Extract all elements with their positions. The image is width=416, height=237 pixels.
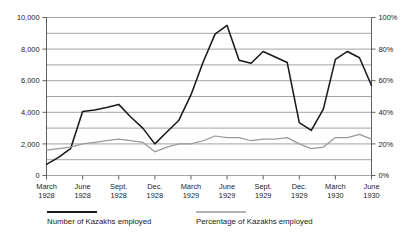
right-axis-tick-label: 40%	[379, 108, 394, 117]
left-axis-ticks	[43, 18, 47, 176]
left-axis-tick-labels: 10,0008,0006,0004,0002,0000	[17, 13, 40, 180]
x-axis-tick-label-year: 1928	[147, 191, 163, 200]
x-axis-tick-label-year: 1928	[74, 191, 90, 200]
x-axis-tick-label-year: 1930	[327, 191, 343, 200]
left-axis-tick-label: 10,000	[17, 13, 40, 22]
left-axis-tick-label: 0	[35, 171, 39, 180]
chart-legend: Number of Kazakhs employedPercentage of …	[47, 212, 313, 226]
x-axis-tick-labels: March1928June1928Sept.1928Dec.1928March1…	[36, 176, 380, 201]
x-axis-tick-label-month: June	[363, 182, 379, 191]
left-axis-tick-label: 2,000	[21, 140, 40, 149]
right-axis-ticks	[372, 18, 376, 176]
right-axis-tick-label: 20%	[379, 140, 394, 149]
right-axis-tick-label: 0%	[379, 171, 390, 180]
x-axis-tick-label-month: Dec.	[292, 182, 307, 191]
x-axis-tick-label-year: 1929	[255, 191, 271, 200]
chart-container: 10,0008,0006,0004,0002,0000 100%80%60%40…	[0, 0, 416, 237]
left-axis-tick-label: 6,000	[21, 76, 40, 85]
x-axis-tick-label-month: Dec.	[147, 182, 162, 191]
gridlines	[47, 18, 372, 176]
x-axis-tick-label-month: March	[181, 182, 202, 191]
series-line	[47, 134, 372, 151]
left-axis-tick-label: 4,000	[21, 108, 40, 117]
legend-label: Number of Kazakhs employed	[47, 217, 151, 226]
x-axis-tick-label-month: Sept.	[255, 182, 272, 191]
legend-label: Percentage of Kazakhs employed	[196, 217, 313, 226]
x-axis-tick-label-month: March	[325, 182, 346, 191]
left-axis-tick-label: 8,000	[21, 45, 40, 54]
x-axis-tick-label-year: 1930	[363, 191, 379, 200]
x-axis-tick-label-month: Sept.	[110, 182, 127, 191]
right-axis-tick-label: 60%	[379, 76, 394, 85]
x-axis-tick-label-year: 1929	[219, 191, 235, 200]
x-axis-tick-label-month: March	[36, 182, 57, 191]
x-axis-tick-label-month: June	[75, 182, 91, 191]
right-axis-tick-label: 80%	[379, 45, 394, 54]
line-chart: 10,0008,0006,0004,0002,0000 100%80%60%40…	[0, 0, 416, 237]
x-axis-tick-label-month: June	[219, 182, 235, 191]
right-axis-tick-label: 100%	[379, 13, 398, 22]
x-axis-tick-label-year: 1928	[110, 191, 126, 200]
right-axis-tick-labels: 100%80%60%40%20%0%	[379, 13, 398, 180]
x-axis-tick-label-year: 1929	[291, 191, 307, 200]
x-axis-tick-label-year: 1928	[38, 191, 54, 200]
x-axis-tick-label-year: 1929	[183, 191, 199, 200]
